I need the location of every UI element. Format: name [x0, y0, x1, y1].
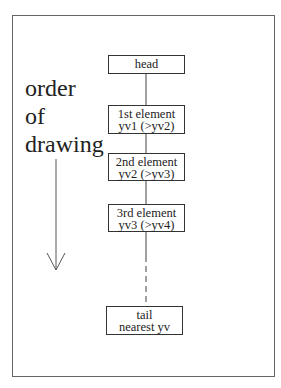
node-tail: tail nearest yv: [106, 306, 183, 335]
label-line-of: of: [25, 102, 104, 130]
order-label: order of drawing: [25, 74, 104, 158]
label-line-order: order: [25, 74, 104, 102]
node-second-value: yv2 (>yv3): [109, 168, 184, 180]
node-first-value: yv1 (>yv2): [109, 120, 184, 132]
node-head: head: [108, 55, 185, 74]
node-tail-value: nearest yv: [107, 321, 182, 333]
node-third-element: 3rd element yv3 (>yv4): [108, 204, 185, 232]
node-first-element: 1st element yv1 (>yv2): [108, 105, 185, 134]
node-second-element: 2nd element yv2 (>yv3): [108, 153, 185, 181]
node-third-value: yv3 (>yv4): [109, 219, 184, 231]
label-line-drawing: drawing: [25, 130, 104, 158]
down-arrow-icon: [47, 159, 65, 270]
node-head-text: head: [109, 56, 184, 73]
